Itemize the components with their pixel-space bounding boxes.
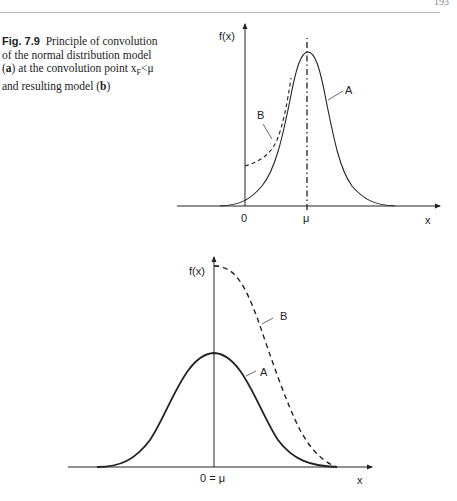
curve-a-bottom [97,353,337,467]
y-label-a: f(x) [219,30,235,42]
curve-b-top [245,78,291,166]
leader-a-top [328,91,343,100]
curve-a-label-bottom: A [260,366,268,378]
x-label-b: x [357,474,363,486]
curve-b-label-bottom: B [280,310,287,322]
x-label-a: x [425,214,431,226]
tick-mu-a: μ [303,212,309,224]
curve-a-label-top: A [345,84,353,96]
y-label-b: f(x) [189,265,205,277]
tick-zero-a: 0 [241,212,247,224]
diagram-b: B A f(x) x 0 = μ [68,257,372,486]
leader-b-bottom [262,318,273,324]
figure-canvas: A B f(x) x 0 μ B A f(x) x 0 = μ [0,0,457,501]
tick-center-b: 0 = μ [200,472,225,484]
diagram-a: A B f(x) x 0 μ [177,24,440,226]
leader-b-top [263,124,272,139]
curve-b-label-top: B [257,109,264,121]
leader-a-bottom [246,371,256,376]
